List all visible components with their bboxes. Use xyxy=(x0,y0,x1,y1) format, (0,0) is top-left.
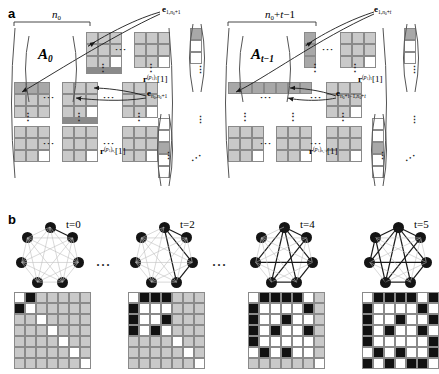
graph-node xyxy=(415,232,426,243)
matrix-cell xyxy=(373,292,384,303)
graph-edge xyxy=(271,238,306,282)
brace-label-n0: n0 xyxy=(52,8,61,21)
matrix-cell xyxy=(69,325,80,336)
matrix-cell xyxy=(270,292,281,303)
ellipsis-h: ··· xyxy=(43,92,55,102)
matrix-cell xyxy=(190,52,202,64)
vector-r-p1-1 xyxy=(190,28,202,64)
matrix-cell xyxy=(14,94,26,106)
matrix-cell xyxy=(281,292,292,303)
matrix-cell xyxy=(395,358,406,369)
matrix-cell xyxy=(404,40,416,52)
matrix-cell xyxy=(86,32,98,44)
matrix-cell xyxy=(395,314,406,325)
matrix-cell xyxy=(338,150,350,162)
matrix-cell xyxy=(74,82,86,94)
matrix-cell xyxy=(183,358,194,369)
matrix-cell xyxy=(194,292,205,303)
matrix-cell xyxy=(248,347,259,358)
graph-edge xyxy=(151,227,164,282)
matrix-cell xyxy=(158,56,170,68)
matrix-cell xyxy=(25,292,36,303)
graph-edge xyxy=(385,227,398,282)
matrix-cell xyxy=(161,347,172,358)
matrix-cell xyxy=(69,292,80,303)
matrix-cell xyxy=(80,303,91,314)
matrix-cell xyxy=(292,347,303,358)
panel-letter-a: a xyxy=(8,6,15,21)
matrix-cell xyxy=(14,82,26,94)
matrix-cell xyxy=(74,138,86,150)
matrix-cell xyxy=(404,52,416,64)
matrix-cell xyxy=(74,126,86,138)
ellipsis-diagonal: ··· xyxy=(402,149,419,165)
matrix-cell xyxy=(80,314,91,325)
matrix-cell xyxy=(194,303,205,314)
matrix-cell xyxy=(58,358,69,369)
matrix-cell xyxy=(36,325,47,336)
matrix-cell xyxy=(14,325,25,336)
matrix-cell xyxy=(350,126,362,138)
matrix-cell xyxy=(150,347,161,358)
graph-edge xyxy=(27,238,62,282)
matrix-cell xyxy=(406,314,417,325)
matrix-cell xyxy=(276,82,288,94)
matrix-cell xyxy=(362,314,373,325)
matrix-cell xyxy=(36,347,47,358)
matrix-cell xyxy=(259,292,270,303)
matrix-cell xyxy=(384,314,395,325)
matrix-cell xyxy=(373,325,384,336)
matrix-cell xyxy=(304,32,316,44)
matrix-cell xyxy=(281,314,292,325)
matrix-cell xyxy=(259,336,270,347)
ellipsis-v: ⋮ xyxy=(164,152,173,161)
matrix-cell xyxy=(352,32,364,44)
matrix-cell xyxy=(194,325,205,336)
matrix-cell xyxy=(304,44,316,56)
matrix-cell xyxy=(240,150,252,162)
graph-edge xyxy=(37,238,72,282)
matrix-cell xyxy=(259,347,270,358)
matrix-cell xyxy=(276,150,288,162)
matrix-cell xyxy=(303,314,314,325)
matrix-cell xyxy=(47,292,58,303)
matrix-cell xyxy=(303,347,314,358)
graph-node xyxy=(291,277,302,288)
matrix-cell xyxy=(362,358,373,369)
matrix-cell xyxy=(150,314,161,325)
matrix-cell xyxy=(14,358,25,369)
matrix-cell xyxy=(292,358,303,369)
figure-root: a n0 A0 ··· ··· ··· ··· ··· ⋮ ⋮ ⋮ ⋮ ⋮ e1… xyxy=(0,0,439,374)
matrix-cell xyxy=(417,347,428,358)
matrix-cell xyxy=(150,292,161,303)
adjacency-matrix xyxy=(362,292,439,369)
graph-edge xyxy=(261,238,296,282)
matrix-cell xyxy=(146,106,158,118)
matrix-cell xyxy=(183,303,194,314)
matrix-cell xyxy=(248,314,259,325)
matrix-cell xyxy=(281,358,292,369)
matrix-cell xyxy=(62,82,74,94)
matrix-cell xyxy=(303,292,314,303)
matrix-cell xyxy=(373,347,384,358)
matrix-block-r3c3 xyxy=(122,126,158,162)
vector-r-p1-n0 xyxy=(158,118,170,178)
ellipsis-v: ⋮ xyxy=(310,63,320,73)
ellipsis-v: ⋮ xyxy=(240,112,250,122)
matrix-cell xyxy=(134,150,146,162)
matrix-cell xyxy=(194,336,205,347)
graph-edge xyxy=(261,238,271,282)
matrix-cell xyxy=(122,106,134,118)
matrix-cell xyxy=(240,82,252,94)
matrix-cell xyxy=(190,28,202,40)
graph-edge xyxy=(385,238,420,282)
matrix-cell xyxy=(276,126,288,138)
matrix-cell xyxy=(314,325,325,336)
matrix-cell xyxy=(314,303,325,314)
matrix-cell xyxy=(139,325,150,336)
matrix-cell xyxy=(128,336,139,347)
matrix-cell xyxy=(150,303,161,314)
matrix-cell xyxy=(139,347,150,358)
matrix-cell xyxy=(395,292,406,303)
matrix-cell xyxy=(417,325,428,336)
